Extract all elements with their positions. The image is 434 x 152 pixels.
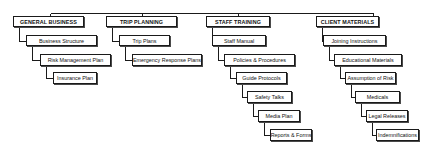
node-business-structure: Business Structure	[26, 35, 97, 46]
heading-trip-planning: TRIP PLANNING	[106, 16, 177, 27]
node-medicals: Medicals	[355, 91, 400, 103]
node-safety-talks: Safety Talks	[247, 91, 292, 103]
node-assumption-of-risk: Assumption of Risk	[345, 72, 396, 84]
node-guide-protocols: Guide Protocols	[236, 72, 287, 84]
node-policies-procedures: Policies & Procedures	[224, 54, 295, 66]
node-emergency-response-plans: Emergency Response Plans	[132, 54, 202, 66]
node-educational-materials: Educational Materials	[334, 54, 402, 66]
node-joining-instructions: Joining Instructions	[323, 35, 386, 46]
heading-client-materials: CLIENT MATERIALS	[316, 16, 379, 27]
node-staff-manual: Staff Manual	[212, 35, 266, 46]
node-insurance-plan: Insurance Plan	[53, 72, 97, 84]
node-reports-forms: Reports & Forms	[270, 129, 312, 141]
heading-general-business: GENERAL BUSINESS	[13, 16, 84, 27]
node-indemnifications: Indemnifications	[376, 129, 419, 141]
node-legal-releases: Legal Releases	[366, 110, 408, 122]
heading-staff-training: STAFF TRAINING	[206, 16, 270, 27]
node-trip-plans: Trip Plans	[119, 35, 170, 46]
node-risk-management-plan: Risk Management Plan	[40, 54, 111, 66]
node-media-plan: Media Plan	[258, 110, 300, 122]
document-hierarchy-diagram: GENERAL BUSINESS Business Structure Risk…	[0, 0, 434, 152]
